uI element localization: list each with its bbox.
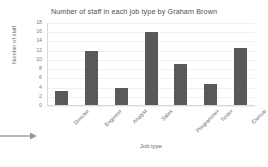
gridline [47,106,255,107]
plot-area [47,23,255,106]
bar-chart: Number of staff in each job type by Grah… [0,0,268,167]
y-tick-label: 6 [39,76,42,81]
y-tick-label: 8 [39,67,42,72]
y-tick-label: 2 [39,94,42,99]
x-tick-label: Clerical [250,108,267,125]
bar[interactable] [174,64,187,105]
bar[interactable] [234,48,247,105]
x-axis-category-labels: DirectorEngineerAnalystSalesProgrammerTe… [47,108,255,138]
y-tick-label: 12 [36,48,42,53]
x-tick-label: Sales [160,108,174,122]
x-axis-title: Job type [47,143,255,149]
bar[interactable] [204,84,217,105]
y-tick-label: 4 [39,85,42,90]
bar[interactable] [145,32,158,105]
x-tick-label: Engineer [103,108,123,128]
y-tick-label: 14 [36,39,42,44]
arrow-right-icon [0,130,40,142]
bar[interactable] [115,88,128,105]
bars-group [47,23,255,106]
chart-title: Number of staff in each job type by Grah… [0,7,268,16]
bar[interactable] [55,91,68,105]
y-tick-label: 10 [36,57,42,62]
x-tick-label: Director [72,108,90,126]
y-tick-label: 18 [36,20,42,25]
y-axis-tick-labels: 024681012141618 [0,23,45,106]
x-tick-label: Analyst [131,108,148,125]
y-tick-label: 0 [39,103,42,108]
bar[interactable] [85,51,98,105]
x-tick-label: Tester [220,108,235,123]
y-tick-label: 16 [36,30,42,35]
x-tick-label: Programmer [194,108,219,133]
